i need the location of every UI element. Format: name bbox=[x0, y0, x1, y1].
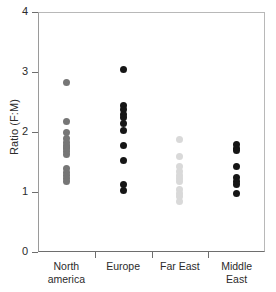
data-point bbox=[120, 187, 127, 194]
plot-area bbox=[38, 12, 265, 252]
data-point bbox=[63, 79, 70, 86]
data-point bbox=[233, 181, 240, 188]
data-point bbox=[63, 151, 70, 158]
x-axis-category-label-line: america bbox=[30, 273, 102, 286]
x-axis-tick bbox=[95, 252, 96, 258]
x-axis-category-label: MiddleEast bbox=[201, 260, 273, 285]
x-axis-category-label-line: East bbox=[201, 273, 273, 286]
y-axis-tick-label: 1 bbox=[4, 186, 28, 197]
scatter-dot-plot-figure: Ratio (F:M) 01234 NorthamericaEuropeFar … bbox=[0, 0, 276, 292]
y-axis-tick-label: 0 bbox=[4, 246, 28, 257]
data-point bbox=[120, 142, 127, 149]
y-axis-tick-label: 3 bbox=[4, 66, 28, 77]
x-axis-tick bbox=[208, 252, 209, 258]
data-point bbox=[233, 147, 240, 154]
data-point bbox=[120, 157, 127, 164]
data-point bbox=[120, 120, 127, 127]
x-axis-tick bbox=[152, 252, 153, 258]
data-point bbox=[176, 198, 183, 205]
x-axis-category-label-line: Middle bbox=[201, 260, 273, 273]
data-point bbox=[120, 127, 127, 134]
y-axis-tick-label: 2 bbox=[4, 126, 28, 137]
data-point bbox=[233, 190, 240, 197]
data-point bbox=[176, 153, 183, 160]
data-point bbox=[120, 66, 127, 73]
y-axis-tick-label: 4 bbox=[4, 6, 28, 17]
